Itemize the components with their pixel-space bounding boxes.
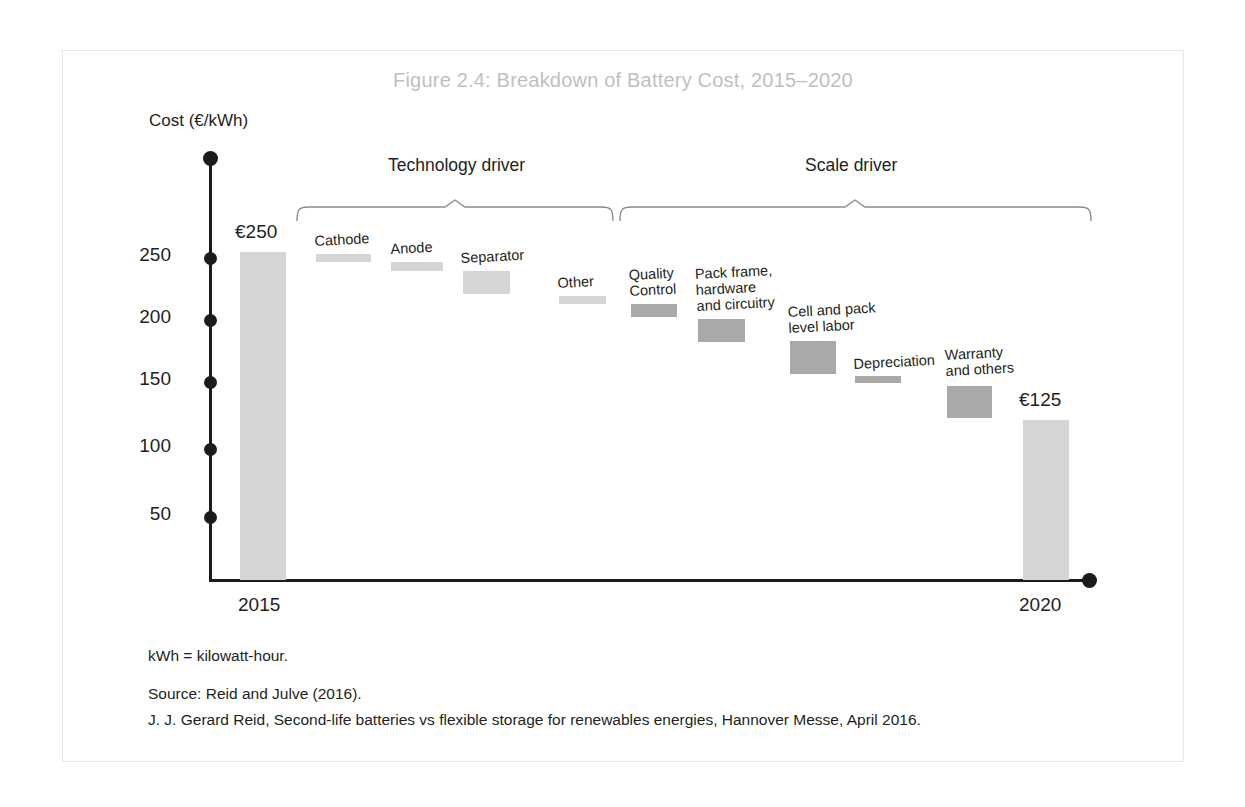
y-tick-label-100: 100 [111,435,171,457]
scale-driver-label: Scale driver [805,155,897,176]
scale-driver-bracket [618,199,1093,225]
y-tick-label-200: 200 [111,306,171,328]
bar-depreciation [855,376,901,383]
bar-other [559,296,606,304]
bar-label-other: Other [557,273,594,291]
bar-label-warranty-others: Warranty and others [944,343,1014,379]
warranty-line2: and others [945,359,1014,379]
bar-label-cell-pack-labor: Cell and pack level labor [787,299,876,336]
technology-driver-label: Technology driver [388,155,525,176]
y-axis-top-cap-dot [203,151,218,166]
bar-anode [391,262,443,271]
value-label-2020: €125 [1019,389,1061,411]
cell-labor-line2: level labor [788,317,855,336]
y-tick-dot-200 [204,314,217,327]
y-tick-label-150: 150 [111,368,171,390]
bar-label-pack-frame: Pack frame, hardware and circuitry [694,262,775,314]
bar-cathode [316,254,371,262]
bar-label-cathode: Cathode [314,230,370,249]
note-source: Source: Reid and Julve (2016). [148,681,362,707]
bar-cell-pack-labor [790,341,836,374]
value-label-2015: €250 [235,221,277,243]
bar-quality-control [631,304,677,317]
bar-label-depreciation: Depreciation [853,352,935,372]
bar-label-anode: Anode [390,239,433,257]
y-axis-title: Cost (€/kWh) [149,111,248,131]
bar-separator [463,271,510,294]
figure-frame: Figure 2.4: Breakdown of Battery Cost, 2… [62,50,1184,762]
note-reference: J. J. Gerard Reid, Second-life batteries… [148,707,921,733]
x-tick-label-2015: 2015 [238,594,280,616]
x-axis-line [209,579,1093,582]
bar-2020 [1023,420,1069,580]
bar-label-separator: Separator [460,247,524,266]
x-tick-label-2020: 2020 [1019,594,1061,616]
y-tick-label-250: 250 [111,244,171,266]
pack-frame-line3: and circuitry [696,294,775,314]
y-tick-dot-150 [204,376,217,389]
x-axis-end-cap-dot [1082,573,1097,588]
y-tick-dot-50 [204,511,217,524]
y-tick-label-50: 50 [111,503,171,525]
note-kwh: kWh = kilowatt-hour. [148,643,288,669]
y-tick-dot-100 [204,443,217,456]
bar-2015 [240,252,286,580]
bar-warranty-others [947,386,992,418]
quality-control-line2: Control [629,281,677,299]
bar-label-quality-control: Quality Control [628,265,676,299]
y-tick-dot-250 [204,252,217,265]
technology-driver-bracket [295,199,615,225]
bar-pack-frame [698,319,745,342]
